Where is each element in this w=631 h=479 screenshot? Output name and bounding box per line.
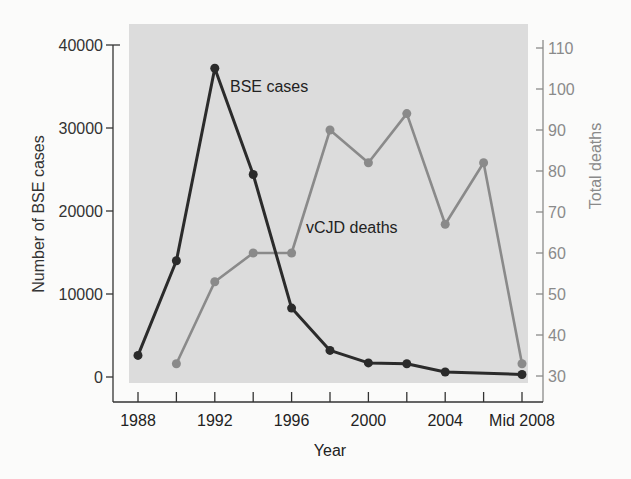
right-y-axis: 30405060708090100110 (536, 40, 575, 402)
y-tick-label: 10000 (59, 286, 104, 303)
y2-tick-label: 30 (548, 368, 566, 385)
data-point (518, 359, 527, 368)
y-tick-label: 20000 (59, 203, 104, 220)
data-point (172, 359, 181, 368)
x-axis: 19881992199620002004Mid 2008 (113, 392, 555, 429)
y2-tick-label: 80 (548, 163, 566, 180)
data-point (326, 346, 335, 355)
data-point (402, 359, 411, 368)
x-tick-label: Mid 2008 (489, 412, 555, 429)
y2-tick-label: 50 (548, 286, 566, 303)
data-point (249, 249, 258, 258)
x-tick-label: 1988 (120, 412, 156, 429)
x-tick-label: 2004 (427, 412, 463, 429)
left-y-axis: 010000200003000040000 (59, 37, 121, 402)
bse-series-label: BSE cases (230, 78, 308, 95)
x-tick-label: 2000 (351, 412, 387, 429)
y2-tick-label: 90 (548, 122, 566, 139)
data-point (518, 370, 527, 379)
data-point (441, 220, 450, 229)
data-point (364, 158, 373, 167)
data-point (134, 351, 143, 360)
data-point (402, 109, 411, 118)
x-tick-label: 1992 (197, 412, 233, 429)
x-tick-label: 1996 (274, 412, 310, 429)
data-point (172, 256, 181, 265)
x-axis-title: Year (314, 442, 347, 459)
bse-vcjd-chart: 010000200003000040000 304050607080901001… (0, 0, 631, 479)
data-point (326, 126, 335, 135)
y-tick-label: 40000 (59, 37, 104, 54)
data-point (441, 368, 450, 377)
y2-tick-label: 60 (548, 245, 566, 262)
data-point (287, 304, 296, 313)
vcjd-series-label: vCJD deaths (306, 219, 398, 236)
data-point (479, 158, 488, 167)
y2-tick-label: 70 (548, 204, 566, 221)
y2-axis-title: Total deaths (587, 123, 604, 209)
y-axis-title: Number of BSE cases (30, 135, 47, 292)
y2-tick-label: 110 (548, 40, 574, 57)
data-point (287, 249, 296, 258)
data-point (364, 358, 373, 367)
y-tick-label: 0 (94, 369, 103, 386)
data-point (210, 277, 219, 286)
y2-tick-label: 100 (548, 81, 575, 98)
y-tick-label: 30000 (59, 120, 104, 137)
data-point (249, 170, 258, 179)
data-point (210, 64, 219, 73)
y2-tick-label: 40 (548, 327, 566, 344)
